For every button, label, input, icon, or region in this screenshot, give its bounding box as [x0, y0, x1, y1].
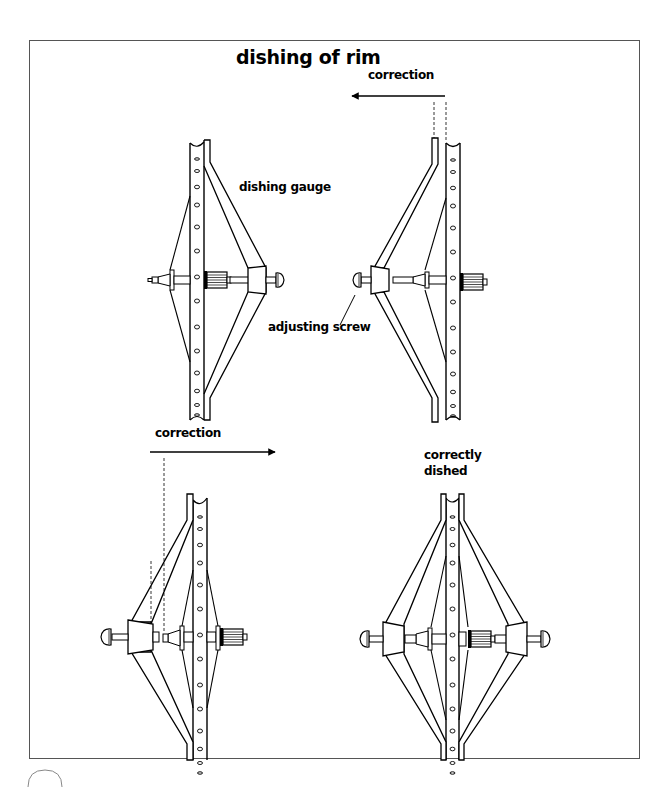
dishing-gauge-left: [360, 494, 446, 760]
dishing-gauge-right: [459, 494, 550, 760]
rim: [190, 140, 204, 420]
hub: [405, 628, 508, 650]
rim: [446, 143, 460, 420]
panel-bottom-right: [360, 494, 550, 774]
rim: [446, 498, 459, 774]
page-corner-mark: [28, 770, 62, 787]
panel-bottom-left: [101, 452, 275, 774]
hub: [163, 626, 247, 650]
dishing-gauge: [101, 494, 193, 760]
panel-top-right: [340, 96, 487, 422]
diagram-canvas: [0, 0, 663, 787]
rim: [193, 498, 207, 774]
hub: [148, 270, 250, 290]
hub: [393, 272, 487, 291]
adjusting-screw-leader: [340, 295, 355, 325]
panel-top-left: [148, 140, 284, 420]
